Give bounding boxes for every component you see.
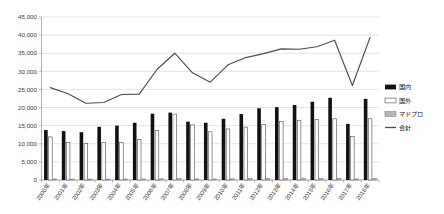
bar-madopro bbox=[355, 179, 359, 180]
bar-madopro bbox=[266, 179, 270, 180]
bar-kokunai bbox=[257, 108, 261, 180]
bar-kokugai bbox=[66, 143, 70, 180]
bar-kokugai bbox=[137, 139, 141, 180]
y-axis-tick-label: 0 bbox=[34, 176, 38, 183]
bar-kokunai bbox=[80, 132, 84, 180]
x-axis-tick-label: 2012年 bbox=[248, 182, 266, 202]
bar-kokunai bbox=[186, 122, 190, 180]
bar-kokunai bbox=[151, 114, 155, 180]
x-axis-tick-label: 2007年 bbox=[159, 182, 177, 202]
legend-label: 合計 bbox=[399, 124, 411, 132]
bar-kokunai bbox=[62, 131, 66, 180]
x-axis-tick-label: 2010年 bbox=[212, 182, 230, 202]
x-axis-tick-label: 2004年 bbox=[105, 182, 123, 202]
bar-kokugai bbox=[244, 127, 248, 180]
bar-madopro bbox=[302, 178, 306, 180]
bar-kokugai bbox=[368, 119, 372, 180]
bar-madopro bbox=[89, 179, 93, 180]
x-axis-tick-label: 2003年 bbox=[88, 182, 106, 202]
x-axis-tick-label: 2016年 bbox=[319, 182, 337, 202]
bar-kokugai bbox=[226, 129, 230, 180]
legend-label: マドプロ bbox=[399, 110, 423, 117]
bar-madopro bbox=[142, 179, 146, 180]
x-axis-tick-label: 2018年 bbox=[354, 182, 372, 202]
bar-kokugai bbox=[351, 137, 355, 180]
bar-madopro bbox=[177, 179, 181, 180]
chart-svg: 05,00010,00015,00020,00025,00030,00035,0… bbox=[0, 0, 444, 214]
bar-madopro bbox=[71, 179, 75, 180]
bar-kokugai bbox=[173, 114, 177, 180]
legend-swatch-kokunai bbox=[385, 85, 396, 90]
total-line-series bbox=[50, 37, 370, 103]
legend-label: 国内 bbox=[399, 83, 411, 91]
bar-madopro bbox=[53, 179, 57, 180]
y-axis-tick-label: 20,000 bbox=[18, 104, 37, 111]
bar-kokugai bbox=[262, 125, 266, 180]
bar-kokunai bbox=[168, 113, 172, 180]
x-axis-tick-label: 2000年 bbox=[34, 182, 52, 202]
combo-bar-line-chart: 05,00010,00015,00020,00025,00030,00035,0… bbox=[0, 0, 444, 214]
x-axis-tick-label: 2014年 bbox=[283, 182, 301, 202]
x-axis-tick-label: 2013年 bbox=[265, 182, 283, 202]
total-line-group bbox=[50, 37, 370, 103]
x-axis-tick-label: 2002年 bbox=[70, 182, 88, 202]
bar-madopro bbox=[248, 179, 252, 180]
bar-kokunai bbox=[311, 102, 315, 180]
y-axis-tick-label: 45,000 bbox=[18, 13, 37, 20]
bar-kokugai bbox=[208, 132, 212, 180]
x-axis-tick-label: 2009年 bbox=[194, 182, 212, 202]
bar-madopro bbox=[373, 178, 377, 180]
bar-kokugai bbox=[191, 125, 195, 180]
y-axis-tick-label: 35,000 bbox=[18, 49, 37, 56]
bar-kokugai bbox=[315, 120, 319, 180]
bar-kokunai bbox=[293, 105, 297, 180]
y-axis-tick-label: 40,000 bbox=[18, 31, 37, 38]
bar-kokunai bbox=[346, 124, 350, 180]
y-axis-tick-label: 10,000 bbox=[18, 140, 37, 147]
bar-madopro bbox=[213, 179, 217, 180]
bar-kokugai bbox=[297, 120, 301, 180]
x-axis-tick-label: 2011年 bbox=[230, 182, 247, 202]
bar-kokugai bbox=[120, 143, 124, 180]
bar-kokunai bbox=[364, 99, 368, 180]
bar-madopro bbox=[320, 178, 324, 180]
legend-swatch-kokugai bbox=[385, 98, 396, 103]
y-axis-tick-label: 25,000 bbox=[18, 86, 37, 93]
y-axis-tick-label: 30,000 bbox=[18, 68, 37, 75]
x-axis-tick-label: 2005年 bbox=[123, 182, 141, 202]
bar-kokunai bbox=[97, 127, 101, 180]
bars-group bbox=[44, 98, 376, 180]
bar-kokugai bbox=[155, 130, 159, 180]
bar-madopro bbox=[284, 179, 288, 180]
bar-kokugai bbox=[102, 142, 106, 180]
bar-madopro bbox=[106, 179, 110, 180]
legend-swatch-madopro bbox=[385, 112, 396, 117]
bar-madopro bbox=[160, 179, 164, 180]
y-axis-labels-group: 05,00010,00015,00020,00025,00030,00035,0… bbox=[18, 13, 41, 183]
legend-group: 国内国外マドプロ合計 bbox=[385, 83, 423, 132]
bar-kokugai bbox=[333, 119, 337, 180]
bar-kokunai bbox=[44, 130, 48, 180]
y-axis-tick-label: 15,000 bbox=[18, 122, 37, 129]
bar-madopro bbox=[231, 179, 235, 180]
bar-kokugai bbox=[280, 122, 284, 180]
x-axis-tick-label: 2015年 bbox=[301, 182, 319, 202]
bar-kokunai bbox=[204, 123, 208, 180]
y-axis-tick-label: 5,000 bbox=[22, 158, 38, 165]
x-axis-tick-label: 2008年 bbox=[176, 182, 194, 202]
bar-kokugai bbox=[49, 137, 53, 180]
x-axis-tick-label: 2017年 bbox=[336, 182, 354, 202]
bar-kokunai bbox=[115, 126, 119, 180]
bar-madopro bbox=[195, 179, 199, 180]
bar-kokunai bbox=[222, 119, 226, 180]
bar-kokunai bbox=[239, 114, 243, 180]
bar-kokugai bbox=[84, 143, 88, 180]
x-axis-labels-group: 2000年2001年2002年2003年2004年2005年2006年2007年… bbox=[34, 182, 371, 202]
x-axis-tick-label: 2001年 bbox=[52, 182, 70, 202]
x-axis-tick-label: 2006年 bbox=[141, 182, 159, 202]
bar-madopro bbox=[337, 178, 341, 180]
bar-kokunai bbox=[275, 107, 279, 180]
legend-label: 国外 bbox=[399, 97, 411, 105]
bar-madopro bbox=[124, 179, 128, 180]
bar-kokunai bbox=[328, 98, 332, 180]
